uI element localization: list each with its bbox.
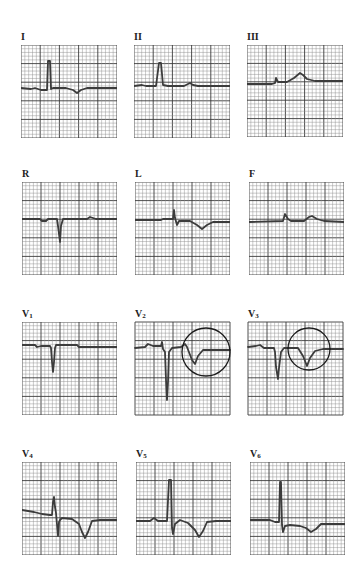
ecg-grid-with-trace <box>21 45 117 138</box>
lead-label-subscript: 6 <box>257 452 261 460</box>
ecg-grid-with-trace <box>22 322 117 415</box>
ecg-grid-with-trace <box>22 182 117 275</box>
lead-label-text: R <box>22 168 29 179</box>
lead-label: F <box>249 168 255 182</box>
lead-label-text: F <box>249 168 255 179</box>
lead-label: III <box>247 31 259 45</box>
ecg-lead-l: L <box>135 182 230 275</box>
lead-label-subscript: 2 <box>142 312 146 320</box>
ecg-lead-v5: V5 <box>136 462 231 555</box>
ecg-trace <box>250 482 345 532</box>
ecg-grid-with-trace <box>247 45 343 137</box>
lead-label-subscript: 3 <box>255 312 259 320</box>
lead-label: R <box>22 168 29 182</box>
ecg-grid-with-trace <box>250 462 345 555</box>
lead-label: II <box>134 31 142 45</box>
ecg-lead-r: R <box>22 182 117 275</box>
ecg-trace <box>21 61 117 93</box>
ecg-lead-v2: V2 <box>135 322 230 415</box>
lead-label-subscript: 4 <box>29 452 33 460</box>
ecg-lead-v3: V3 <box>248 322 343 415</box>
ecg-lead-f: F <box>249 182 344 275</box>
ecg-grid-with-trace <box>22 462 117 555</box>
lead-label: V6 <box>250 448 261 462</box>
lead-label-subscript: 1 <box>29 312 33 320</box>
lead-label: V5 <box>136 448 147 462</box>
ecg-lead-v1: V1 <box>22 322 117 415</box>
ecg-grid-with-trace <box>135 322 230 415</box>
ecg-grid-with-trace <box>135 182 230 275</box>
lead-label: V3 <box>248 308 259 322</box>
lead-label-text: I <box>21 31 25 42</box>
ecg-grid-with-trace <box>136 462 231 555</box>
ecg-lead-v4: V4 <box>22 462 117 555</box>
lead-label-text: L <box>135 168 142 179</box>
lead-label-subscript: 5 <box>143 452 147 460</box>
ecg-grid-with-trace <box>248 322 343 415</box>
lead-label: L <box>135 168 142 182</box>
ecg-lead-ii: II <box>134 45 230 138</box>
ecg-lead-iii: III <box>247 45 343 137</box>
lead-label-text: III <box>247 31 259 42</box>
ecg-lead-v6: V6 <box>250 462 345 555</box>
ecg-trace <box>249 214 344 222</box>
ecg-lead-i: I <box>21 45 117 138</box>
lead-label: V2 <box>135 308 146 322</box>
lead-label: I <box>21 31 25 45</box>
ecg-trace <box>136 480 231 537</box>
ecg-grid-with-trace <box>134 45 230 138</box>
lead-label: V4 <box>22 448 33 462</box>
ecg-grid-with-trace <box>249 182 344 275</box>
lead-label-text: II <box>134 31 142 42</box>
lead-label: V1 <box>22 308 33 322</box>
ecg-trace <box>22 345 117 372</box>
